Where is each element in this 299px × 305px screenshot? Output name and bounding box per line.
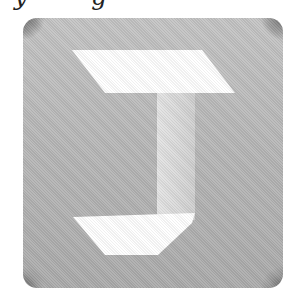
cropped-caption-text: y g bbox=[14, 0, 135, 11]
j-stem bbox=[157, 88, 195, 220]
j-top-bar bbox=[72, 50, 235, 93]
app-icon-tile bbox=[23, 18, 283, 288]
j-bottom-bar bbox=[73, 213, 195, 255]
letter-j-icon bbox=[23, 18, 283, 288]
